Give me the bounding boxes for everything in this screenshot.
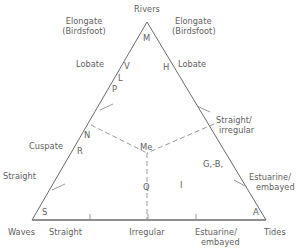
edge-tick-lower-right xyxy=(234,180,247,187)
bottom-label-irregular: Irregular xyxy=(124,228,170,237)
delta-code-v: V xyxy=(124,61,130,71)
left-label-cuspate: Cuspate xyxy=(29,142,63,151)
upper-right-lobate: Lobate xyxy=(178,60,206,69)
apex-label-rivers: Rivers xyxy=(124,5,170,14)
right-label-straight-irregular-line2: irregular xyxy=(219,126,254,135)
bottom-label-estuarine-line1: Estuarine/ xyxy=(195,228,237,237)
right-label-straight-irregular-line1: Straight/ xyxy=(216,116,252,125)
upper-left-elongate-line2: (Birdsfoot) xyxy=(48,27,120,37)
edge-tick-lower-left xyxy=(52,184,65,190)
delta-code-h: H xyxy=(163,62,169,72)
right-label-estuarine-line1: Estuarine/ xyxy=(249,173,291,182)
edge-tick-upper-left xyxy=(100,104,113,110)
ternary-diagram: Rivers Elongate (Birdsfoot) Lobate Elong… xyxy=(0,0,304,252)
bottom-label-waves: Waves xyxy=(8,228,35,237)
delta-code-me: Me xyxy=(140,142,152,152)
delta-code-l: L xyxy=(118,73,123,83)
delta-code-r: R xyxy=(77,146,83,156)
upper-right-elongate-line1: Elongate xyxy=(175,17,212,26)
delta-code-q: Q xyxy=(143,182,150,192)
delta-code-a: A xyxy=(253,207,259,217)
left-label-straight: Straight xyxy=(3,172,36,181)
delta-code-i: I xyxy=(180,180,182,190)
upper-right-elongate-line2: (Birdsfoot) xyxy=(172,27,216,36)
delta-code-n: N xyxy=(84,130,90,140)
bottom-label-straight: Straight xyxy=(49,228,82,237)
delta-code-p: P xyxy=(112,84,117,94)
divider-branch-left xyxy=(91,125,147,153)
upper-left-lobate: Lobate xyxy=(76,60,104,69)
delta-code-s: S xyxy=(42,207,47,217)
divider-branch-right xyxy=(147,124,214,153)
delta-code-m: M xyxy=(143,33,150,43)
bottom-label-estuarine-line2: embayed xyxy=(201,238,240,247)
right-label-estuarine-line2: embayed xyxy=(256,183,295,192)
delta-code-gb: G,-B, xyxy=(203,159,223,169)
bottom-label-tides: Tides xyxy=(264,228,286,237)
